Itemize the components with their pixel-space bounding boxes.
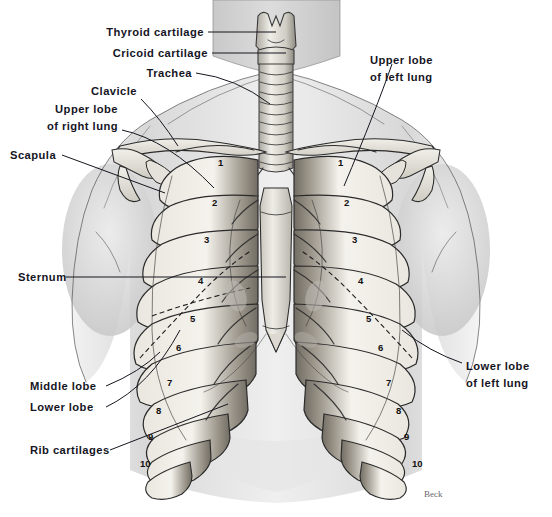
label-trachea: Trachea [147,67,193,79]
rib-number-right-3: 3 [204,234,209,245]
rib-number-right-5: 5 [190,313,196,324]
rib-number-right-2: 2 [212,197,217,208]
label-lower-lobe-left-1: Lower lobe [466,360,530,372]
rib-number-left-10: 10 [412,458,423,469]
rib-number-left-4: 4 [358,275,364,286]
label-lower-lobe: Lower lobe [30,401,94,413]
label-sternum: Sternum [18,271,67,283]
label-clavicle: Clavicle [91,85,137,97]
label-upper-lobe-left-1: Upper lobe [370,54,433,66]
rib-number-left-5: 5 [366,313,372,324]
anatomy-figure: 1 2 3 4 5 6 7 8 9 10 1 2 3 4 5 6 7 8 9 1… [0,0,552,517]
artist-signature: Beck [424,489,443,499]
rib-number-right-8: 8 [156,405,161,416]
label-upper-lobe-right-1: Upper lobe [55,103,118,115]
rib-number-right-1: 1 [218,157,224,168]
rib-number-left-8: 8 [396,405,401,416]
label-scapula: Scapula [10,149,56,161]
rib-number-right-6: 6 [176,342,181,353]
rib-number-left-1: 1 [338,157,344,168]
label-thyroid-cartilage: Thyroid cartilage [106,26,204,38]
thorax-illustration: 1 2 3 4 5 6 7 8 9 10 1 2 3 4 5 6 7 8 9 1… [0,0,552,517]
label-lower-lobe-left-2: of left lung [466,377,529,389]
rib-number-left-9: 9 [404,431,409,442]
rib-number-right-10: 10 [140,458,151,469]
rib-number-right-9: 9 [148,431,153,442]
rib-number-left-7: 7 [386,377,391,388]
rib-number-left-6: 6 [378,342,383,353]
rib-number-right-7: 7 [167,377,172,388]
label-upper-lobe-right-2: of right lung [47,120,118,132]
label-cricoid-cartilage: Cricoid cartilage [113,47,208,59]
trachea-shape [259,64,293,172]
label-upper-lobe-left-2: of left lung [370,71,433,83]
label-rib-cartilages: Rib cartilages [30,444,110,456]
rib-number-left-2: 2 [344,197,349,208]
rib-number-left-3: 3 [352,234,357,245]
label-middle-lobe: Middle lobe [30,380,96,392]
